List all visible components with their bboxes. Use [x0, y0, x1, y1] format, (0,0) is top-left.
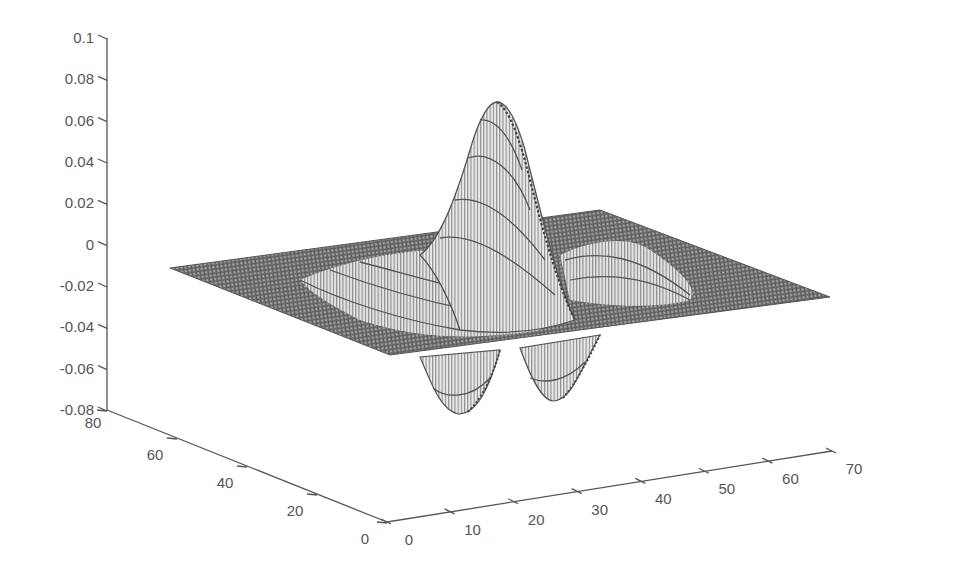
y-tick-label: 20 [287, 502, 304, 519]
x-tick-label: 30 [591, 501, 608, 518]
z-tick-label: -0.02 [60, 277, 94, 294]
x-tick-label: 10 [464, 521, 481, 538]
y-tick-label: 40 [217, 474, 234, 491]
x-axis: 010203040506070 [381, 448, 862, 548]
z-tick-label: 0.1 [73, 29, 94, 46]
z-tick-label: 0 [86, 236, 94, 253]
surface-plot: 0.10.080.060.040.020-0.02-0.04-0.06-0.08… [0, 0, 955, 571]
z-tick-label: 0.08 [65, 70, 94, 87]
z-tick-label: 0.04 [65, 153, 94, 170]
y-axis: 806040200 [85, 410, 387, 547]
z-axis: 0.10.080.060.040.020-0.02-0.04-0.06-0.08 [60, 29, 107, 418]
z-tick-label: 0.02 [65, 194, 94, 211]
z-tick-label: -0.06 [60, 360, 94, 377]
x-tick-label: 20 [528, 511, 545, 528]
z-tick-label: 0.06 [65, 112, 94, 129]
x-tick-label: 0 [405, 531, 413, 548]
x-tick-label: 50 [719, 480, 736, 497]
z-tick-label: -0.04 [60, 318, 94, 335]
x-tick-label: 40 [655, 490, 672, 507]
x-tick-label: 60 [782, 470, 799, 487]
y-tick-label: 0 [361, 530, 369, 547]
y-tick-label: 60 [147, 446, 164, 463]
x-tick-label: 70 [846, 460, 863, 477]
y-tick-label: 80 [85, 414, 102, 431]
